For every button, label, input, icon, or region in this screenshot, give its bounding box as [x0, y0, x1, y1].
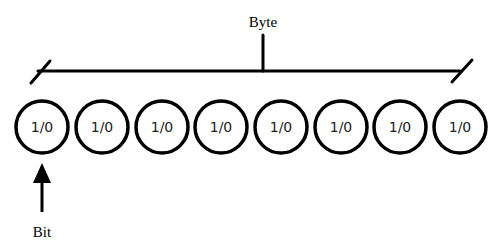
- bit-cell: 1/0: [434, 101, 486, 153]
- bit-cell: 1/0: [136, 101, 188, 153]
- byte-label: Byte: [249, 14, 278, 30]
- arrow-up-icon: [33, 163, 51, 212]
- bit-cell: 1/0: [255, 101, 307, 153]
- bit-value: 1/0: [151, 119, 174, 135]
- bit-cell: 1/0: [315, 101, 367, 153]
- bit-row: 1/0 1/0 1/0 1/0 1/0 1/0: [16, 101, 486, 153]
- byte-bracket: [31, 35, 472, 83]
- bit-cell: 1/0: [195, 101, 247, 153]
- bit-cell: 1/0: [76, 101, 128, 153]
- bit-value: 1/0: [91, 119, 114, 135]
- byte-bit-diagram: Byte 1/0 1/0 1/0 1/0: [0, 0, 503, 250]
- bit-value: 1/0: [389, 119, 412, 135]
- bit-value: 1/0: [330, 119, 353, 135]
- bit-cell: 1/0: [16, 101, 68, 153]
- bit-value: 1/0: [210, 119, 233, 135]
- bit-cell: 1/0: [374, 101, 426, 153]
- bit-label: Bit: [33, 224, 52, 240]
- bit-value: 1/0: [449, 119, 472, 135]
- bit-value: 1/0: [31, 119, 54, 135]
- bit-value: 1/0: [270, 119, 293, 135]
